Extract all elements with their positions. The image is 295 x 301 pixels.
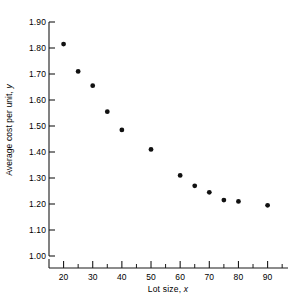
data-point: [76, 69, 81, 74]
data-point: [149, 147, 154, 152]
x-axis-label-text: Lot size,: [148, 284, 184, 294]
x-axis-label-variable: x: [184, 284, 188, 294]
plot-canvas: [0, 0, 295, 301]
x-tick-label: 20: [49, 272, 79, 282]
data-point: [221, 198, 226, 203]
data-point: [265, 203, 270, 208]
axes-group: [49, 22, 288, 268]
x-tick-label: 60: [165, 272, 195, 282]
x-tick-label: 70: [194, 272, 224, 282]
data-point: [61, 42, 66, 47]
x-tick-label: 40: [107, 272, 137, 282]
tick-marks-group: [49, 22, 282, 268]
data-point: [119, 127, 124, 132]
x-tick-label: 30: [78, 272, 108, 282]
x-tick-label: 50: [136, 272, 166, 282]
data-point: [192, 183, 197, 188]
data-points-group: [61, 42, 270, 208]
x-tick-label: 90: [253, 272, 283, 282]
data-point: [207, 190, 212, 195]
data-point: [105, 109, 110, 114]
data-point: [178, 173, 183, 178]
data-point: [236, 199, 241, 204]
scatter-plot-figure: Average cost per unit, y 1.001.101.201.3…: [0, 0, 295, 301]
x-tick-label: 80: [223, 272, 253, 282]
data-point: [90, 83, 95, 88]
x-axis-label: Lot size, x: [48, 284, 288, 294]
